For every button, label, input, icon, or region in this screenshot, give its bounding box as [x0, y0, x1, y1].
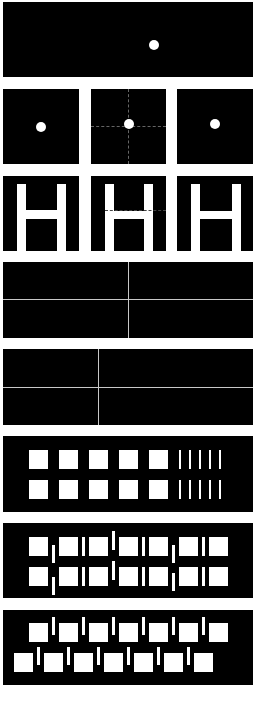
panel-square-dot-right — [177, 89, 253, 164]
bar — [202, 537, 205, 556]
line — [179, 480, 181, 499]
square — [59, 567, 78, 586]
square — [134, 653, 153, 672]
line — [209, 450, 211, 469]
panel-staggered-squares-bars — [3, 610, 253, 685]
bar — [202, 567, 205, 586]
line — [219, 450, 221, 469]
panel-squares-offset-bars — [3, 523, 253, 598]
dashed-line — [105, 210, 166, 211]
square — [149, 623, 168, 642]
line — [219, 480, 221, 499]
line — [189, 480, 191, 499]
square — [29, 450, 48, 469]
h-crossbar — [191, 211, 241, 219]
divider-horizontal — [3, 299, 253, 300]
square — [29, 537, 48, 556]
bar — [127, 647, 130, 665]
bar — [112, 561, 115, 580]
square — [119, 537, 138, 556]
panel-h-left — [3, 176, 79, 251]
panel-grid-even — [3, 262, 253, 338]
square — [59, 623, 78, 642]
square — [194, 653, 213, 672]
square — [104, 653, 123, 672]
bar — [142, 567, 145, 586]
square — [179, 537, 198, 556]
square — [29, 623, 48, 642]
square — [209, 567, 228, 586]
bar — [157, 647, 160, 665]
square — [44, 653, 63, 672]
square — [149, 480, 168, 499]
bar — [142, 537, 145, 556]
square — [59, 480, 78, 499]
bar — [52, 545, 55, 563]
bar — [112, 617, 115, 635]
bar — [52, 577, 55, 595]
square — [74, 653, 93, 672]
h-crossbar — [105, 211, 153, 219]
square — [59, 537, 78, 556]
panel-squares-lines — [3, 436, 253, 512]
line — [199, 480, 201, 499]
divider-horizontal — [3, 387, 253, 388]
square — [89, 480, 108, 499]
bar — [202, 617, 205, 635]
line — [199, 450, 201, 469]
square — [14, 653, 33, 672]
square — [59, 450, 78, 469]
bar — [172, 545, 175, 563]
panel-square-dot-center — [91, 89, 166, 164]
square — [29, 480, 48, 499]
square — [89, 567, 108, 586]
square — [119, 480, 138, 499]
square — [119, 623, 138, 642]
square — [149, 567, 168, 586]
square — [89, 623, 108, 642]
dot-icon — [149, 40, 159, 50]
panel-square-dot-left — [3, 89, 79, 164]
h-crossbar — [17, 210, 66, 219]
bar — [67, 647, 70, 665]
bar — [52, 617, 55, 635]
panel-h-right — [177, 176, 253, 251]
square — [179, 567, 198, 586]
bar — [82, 537, 85, 556]
bar — [82, 617, 85, 635]
bar — [37, 647, 40, 665]
square — [209, 537, 228, 556]
bar — [142, 617, 145, 635]
line — [189, 450, 191, 469]
dot-icon — [36, 122, 46, 132]
bar — [187, 647, 190, 665]
dot-icon — [124, 119, 134, 129]
bar — [97, 647, 100, 665]
square — [29, 567, 48, 586]
square — [179, 623, 198, 642]
panel-grid-offset — [3, 349, 253, 425]
square — [164, 653, 183, 672]
panel-h-center — [91, 176, 166, 251]
line — [209, 480, 211, 499]
square — [89, 537, 108, 556]
square — [119, 450, 138, 469]
bar — [112, 531, 115, 550]
divider-vertical — [128, 262, 129, 338]
bar — [172, 573, 175, 591]
bar — [172, 617, 175, 635]
line — [179, 450, 181, 469]
square — [149, 450, 168, 469]
square — [149, 537, 168, 556]
dot-icon — [210, 119, 220, 129]
square — [119, 567, 138, 586]
panel-wide-dot — [3, 2, 253, 77]
bar — [82, 567, 85, 586]
square — [89, 450, 108, 469]
square — [209, 623, 228, 642]
